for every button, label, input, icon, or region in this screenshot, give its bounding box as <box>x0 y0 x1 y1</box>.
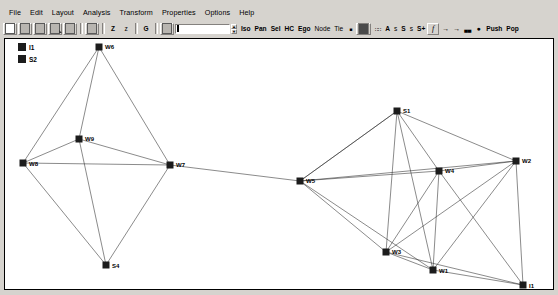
graph-node-label: W4 <box>445 168 455 174</box>
graph-node[interactable] <box>96 44 103 51</box>
graph-edge[interactable] <box>170 165 300 181</box>
save-as-document-button[interactable] <box>48 23 62 35</box>
menu-item-options[interactable]: Options <box>201 7 235 18</box>
tie-button[interactable]: Tie <box>332 25 345 32</box>
node-dots-icon[interactable]: ∷∷ <box>372 24 383 34</box>
graph-edge[interactable] <box>99 47 170 165</box>
right-arrow-icon[interactable]: → <box>451 23 462 34</box>
graph-edge[interactable] <box>23 139 79 163</box>
s-lower2-button[interactable]: s <box>408 25 415 32</box>
graph-node[interactable] <box>436 168 443 175</box>
stepper-down-icon[interactable]: ▼ <box>231 29 237 34</box>
histogram-icon[interactable]: ▄▄ <box>462 24 473 34</box>
copy-icon <box>87 23 97 34</box>
pop-button[interactable]: Pop <box>504 25 520 32</box>
legend: I1 S2 <box>18 43 37 67</box>
menu-item-file[interactable]: File <box>5 7 26 18</box>
graph-node-label: I1 <box>529 283 535 289</box>
graph-edge[interactable] <box>23 163 170 165</box>
graph-node[interactable] <box>513 158 520 165</box>
a-button[interactable]: A <box>383 25 392 32</box>
push-button[interactable]: Push <box>484 25 504 32</box>
print-icon <box>65 23 75 34</box>
z-small-button[interactable]: z <box>120 23 132 35</box>
graph-edge[interactable] <box>79 139 106 265</box>
network-graph[interactable]: W6W9W8W7S4W5S1W4W2W3W1I1 <box>5 39 553 289</box>
toolbar-separator <box>80 23 83 34</box>
sel-button[interactable]: Sel <box>269 25 283 32</box>
hc-button[interactable]: HC <box>283 25 297 32</box>
iso-button[interactable]: Iso <box>239 25 253 32</box>
graph-edge[interactable] <box>79 139 170 165</box>
graph-canvas[interactable]: I1 S2 W6W9W8W7S4W5S1W4W2W3W1I1 <box>4 38 554 290</box>
graph-edge[interactable] <box>386 161 516 252</box>
graph-edge[interactable] <box>397 111 433 270</box>
print-button[interactable] <box>63 23 77 35</box>
open-document-button[interactable] <box>18 23 32 35</box>
s-lower-button[interactable]: s <box>392 25 399 32</box>
graph-node-label: S1 <box>403 108 411 114</box>
graph-edge[interactable] <box>300 171 439 181</box>
pan-button[interactable]: Pan <box>253 25 269 32</box>
legend-item[interactable]: S2 <box>18 55 37 63</box>
graph-node[interactable] <box>430 267 437 274</box>
menu-item-layout[interactable]: Layout <box>48 7 79 18</box>
menu-item-properties[interactable]: Properties <box>158 7 201 18</box>
graph-node[interactable] <box>103 262 110 269</box>
value-input[interactable] <box>175 24 230 34</box>
graph-edge[interactable] <box>516 161 523 285</box>
graph-node[interactable] <box>76 136 83 143</box>
s-upper-button[interactable]: S <box>399 25 407 32</box>
grid-icon[interactable]: ■ <box>345 24 356 34</box>
graph-edge[interactable] <box>433 171 439 270</box>
node-button[interactable]: Node <box>313 25 333 32</box>
menu-item-analysis[interactable]: Analysis <box>79 7 116 18</box>
graph-node[interactable] <box>167 162 174 169</box>
graph-edge[interactable] <box>23 163 106 265</box>
graph-edge[interactable] <box>300 161 516 181</box>
menu-item-transform[interactable]: Transform <box>116 7 158 18</box>
graph-node-label: S4 <box>112 263 120 269</box>
graph-edge[interactable] <box>386 111 397 252</box>
graph-node[interactable] <box>520 282 527 289</box>
save-document-button[interactable] <box>33 23 47 35</box>
z-button[interactable]: Z <box>107 23 119 35</box>
toolbar-separator <box>135 23 138 34</box>
graph-edge[interactable] <box>79 47 99 139</box>
graph-edge[interactable] <box>300 181 386 252</box>
graph-node[interactable] <box>394 108 401 115</box>
copy-button[interactable] <box>85 23 99 35</box>
toolbar-separator <box>155 23 158 34</box>
graph-node[interactable] <box>383 249 390 256</box>
graph-edge[interactable] <box>106 165 170 265</box>
graph-node[interactable] <box>20 160 27 167</box>
menu-item-edit[interactable]: Edit <box>26 7 48 18</box>
g-button[interactable]: G <box>140 23 152 35</box>
graph-node-label: W2 <box>522 158 532 164</box>
edges-layer <box>23 47 523 285</box>
ego-button[interactable]: Ego <box>296 25 312 32</box>
new-document-icon <box>5 23 15 34</box>
legend-swatch-icon <box>18 43 26 51</box>
left-arrow-icon[interactable]: → <box>440 23 451 34</box>
italic-f-button[interactable]: f <box>427 23 439 35</box>
zoom-tool-button[interactable] <box>160 23 174 35</box>
dot-icon[interactable]: ● <box>473 23 484 34</box>
text-caret <box>177 25 179 32</box>
graph-edge[interactable] <box>433 161 516 270</box>
application-window: File Edit Layout Analysis Transform Prop… <box>0 0 558 295</box>
magnifier-icon <box>162 23 172 34</box>
color-swatch-button[interactable] <box>356 23 371 35</box>
graph-node-label: W1 <box>439 268 449 274</box>
s-plus-button[interactable]: S+ <box>415 25 427 32</box>
value-stepper[interactable]: ▲ ▼ <box>231 23 237 34</box>
graph-node[interactable] <box>297 178 304 185</box>
legend-item-label: I1 <box>29 44 34 51</box>
graph-edge[interactable] <box>300 181 433 270</box>
graph-edge[interactable] <box>300 111 397 181</box>
menu-item-help[interactable]: Help <box>235 7 259 18</box>
graph-edge[interactable] <box>397 111 516 161</box>
legend-item[interactable]: I1 <box>18 43 37 51</box>
new-document-button[interactable] <box>3 23 17 35</box>
graph-edge[interactable] <box>386 171 439 252</box>
